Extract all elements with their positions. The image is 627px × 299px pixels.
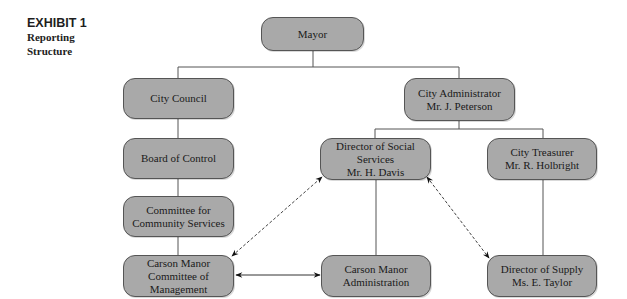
dashed-arrow-social-supply	[427, 177, 489, 258]
node-carson-manor-committee: Carson Manor Committee of Management	[123, 255, 234, 297]
node-label: Mr. J. Peterson	[427, 100, 493, 113]
node-director-of-supply: Director of Supply Ms. E. Taylor	[487, 255, 597, 297]
node-label: Committee for	[146, 204, 210, 217]
node-label: Services	[357, 153, 394, 166]
node-label: Administration	[343, 276, 410, 289]
node-label: Carson Manor	[344, 263, 407, 276]
node-label: City Treasurer	[510, 146, 573, 159]
dashed-arrow-committee-social	[232, 177, 322, 256]
node-label: Mr. H. Davis	[347, 166, 404, 179]
node-label: Carson Manor	[147, 257, 210, 270]
node-label: Community Services	[132, 217, 225, 230]
node-label: Ms. E. Taylor	[512, 276, 572, 289]
node-label: Committee of	[148, 270, 209, 283]
node-label: Director of Social	[336, 140, 415, 153]
node-director-social-services: Director of Social Services Mr. H. Davis	[320, 138, 431, 180]
node-mayor: Mayor	[261, 17, 364, 51]
node-label: Mr. R. Holbright	[505, 159, 579, 172]
node-city-treasurer: City Treasurer Mr. R. Holbright	[487, 138, 597, 180]
node-label: Board of Control	[141, 152, 216, 165]
node-label: City Council	[150, 92, 207, 105]
node-city-council: City Council	[123, 78, 234, 119]
node-label: Director of Supply	[501, 263, 583, 276]
node-label: Mayor	[298, 28, 327, 41]
node-label: City Administrator	[418, 87, 501, 100]
node-carson-manor-administration: Carson Manor Administration	[321, 255, 431, 297]
node-committee-community-services: Committee for Community Services	[123, 196, 234, 237]
node-board-of-control: Board of Control	[123, 138, 234, 179]
node-label: Management	[150, 283, 207, 296]
node-city-administrator: City Administrator Mr. J. Peterson	[404, 78, 515, 121]
